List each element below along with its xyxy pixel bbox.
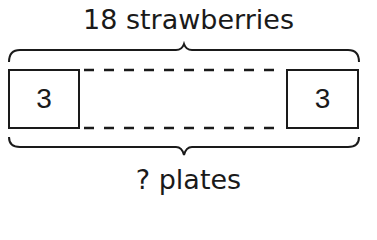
unknown-label: ? plates [0, 166, 377, 193]
top-brace [9, 44, 359, 62]
bottom-brace [9, 137, 359, 155]
first-group-box: 3 [8, 69, 80, 129]
last-group-box: 3 [286, 69, 359, 129]
